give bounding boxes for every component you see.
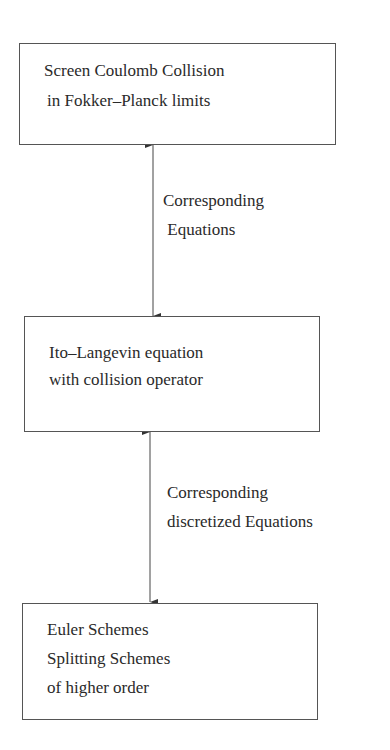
edge-label-line: Corresponding — [163, 186, 264, 215]
edge-label-line: discretized Equations — [167, 507, 313, 536]
box-text-line: of higher order — [47, 674, 149, 701]
edge-label-line: Corresponding — [167, 478, 313, 507]
box-coulomb-collision: Screen Coulomb Collision in Fokker–Planc… — [19, 43, 336, 145]
edge-label-2: Corresponding discretized Equations — [167, 478, 313, 536]
box-text-line: in Fokker–Planck limits — [47, 87, 210, 114]
box-text-line: with collision operator — [49, 366, 203, 393]
box-text-line: Euler Schemes — [47, 616, 149, 643]
edge-label-line: Equations — [163, 215, 264, 244]
box-ito-langevin: Ito–Langevin equation with collision ope… — [24, 316, 320, 432]
edge-label-1: Corresponding Equations — [163, 186, 264, 244]
box-text-line: Ito–Langevin equation — [49, 339, 203, 366]
box-text-line: Splitting Schemes — [47, 645, 170, 672]
box-euler-schemes: Euler Schemes Splitting Schemes of highe… — [22, 603, 318, 720]
box-text-line: Screen Coulomb Collision — [44, 57, 224, 84]
